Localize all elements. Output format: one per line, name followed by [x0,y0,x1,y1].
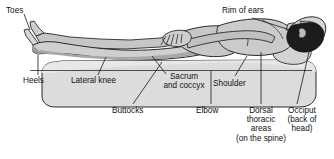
label-toes: Toes [6,6,23,15]
hair-occiput [287,22,324,52]
label-occiput: Occiput (back of head) [279,106,325,134]
label-rim-of-ears: Rim of ears [222,6,264,15]
far-foot-toes [30,21,44,36]
label-sacrum-and-coccyx: Sacrum and coccyx [154,72,214,90]
label-lateral-knee: Lateral knee [71,76,116,85]
label-elbow: Elbow [196,106,218,115]
pressure-points-figure: Toes Rim of ears Heels Lateral knee Sacr… [0,0,334,159]
label-buttocks: Buttocks [112,106,143,115]
label-heels: Heels [23,76,44,85]
ear [299,28,306,38]
label-shoulder: Shoulder [213,79,246,88]
leader-toes [24,14,30,30]
